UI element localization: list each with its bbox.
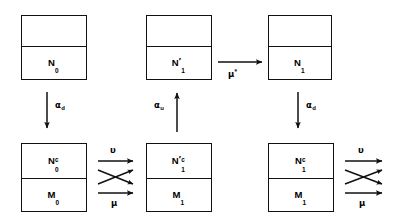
compartment-top-empty: [147, 16, 211, 46]
label-upsilon-right: υ: [358, 146, 364, 155]
label-alpha-d-right: αd: [306, 101, 316, 110]
label-mu-left: μ: [111, 199, 117, 208]
label-upsilon-left: υ: [110, 146, 116, 155]
compartment-top-empty: [269, 16, 331, 46]
exchange-cluster-left: [98, 161, 133, 193]
label-mu-star: μ*: [228, 70, 237, 79]
exchange-cluster-right: [345, 161, 382, 193]
label-m0: M0: [47, 190, 60, 200]
box-top-left: N0: [21, 15, 87, 80]
compartment-bottom: N1: [269, 46, 331, 79]
label-mu-right: μ: [359, 199, 365, 208]
compartment-bottom: M0: [22, 178, 86, 211]
compartment-top: N′c1: [147, 144, 211, 178]
box-top-right: N1: [268, 15, 332, 80]
box-bottom-right: Nc1 M1: [268, 143, 334, 212]
box-top-middle: N′1: [146, 15, 212, 80]
label-n1-prime: N′1: [172, 58, 187, 68]
label-alpha-u-middle: αu: [154, 101, 164, 110]
label-n1: N1: [294, 58, 306, 68]
box-bottom-left: Nc0 M0: [21, 143, 87, 212]
label-alpha-d-left: αd: [55, 101, 65, 110]
label-n0-c: Nc0: [48, 156, 60, 166]
label-n0: N0: [48, 58, 60, 68]
label-m1: M1: [294, 190, 307, 200]
compartment-top: Nc0: [22, 144, 86, 178]
compartment-top: Nc1: [269, 144, 333, 178]
compartment-bottom: N′1: [147, 46, 211, 79]
diagram-canvas: N0 N′1 N1 Nc0 M0 N′c1 M1: [0, 0, 394, 222]
compartment-top-empty: [22, 16, 86, 46]
box-bottom-middle: N′c1 M1: [146, 143, 212, 212]
compartment-bottom: N0: [22, 46, 86, 79]
label-n1-c: Nc1: [295, 156, 307, 166]
label-m1: M1: [172, 190, 185, 200]
compartment-bottom: M1: [147, 178, 211, 211]
label-n1-prime-c: N′c1: [172, 156, 187, 166]
compartment-bottom: M1: [269, 178, 333, 211]
